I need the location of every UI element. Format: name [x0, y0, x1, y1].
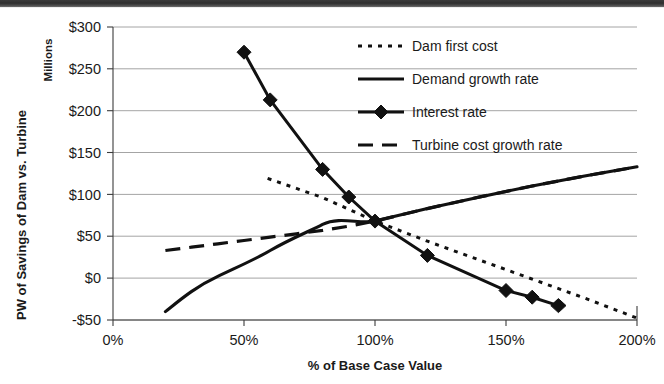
- legend-item-turbine-cost-growth-rate[interactable]: Turbine cost growth rate: [358, 137, 563, 153]
- x-axis-title: % of Base Case Value: [308, 358, 442, 373]
- xtick-label-100: 100%: [356, 332, 393, 348]
- chart-legend: Dam first cost Demand growth rate Intere…: [358, 38, 563, 153]
- legend-label-interest-rate: Interest rate: [412, 104, 487, 120]
- y-tick-labels: $300 $250 $200 $150 $100 $50 $0 -$50: [69, 19, 101, 328]
- legend-label-turbine-cost-growth-rate: Turbine cost growth rate: [412, 137, 563, 153]
- ytick-label-300: $300: [69, 19, 101, 35]
- data-point-marker: [551, 299, 566, 313]
- ytick-label-0: $0: [85, 270, 101, 286]
- xtick-label-0: 0%: [103, 332, 124, 348]
- data-point-marker: [525, 290, 539, 304]
- data-point-marker: [499, 284, 513, 298]
- ytick-label-200: $200: [69, 103, 101, 119]
- legend-label-dam-first-cost: Dam first cost: [412, 38, 498, 54]
- ytick-label-100: $100: [69, 187, 101, 203]
- gridlines: [113, 27, 637, 320]
- chart-svg: $300 $250 $200 $150 $100 $50 $0 -$50 0% …: [0, 0, 664, 384]
- axes: [107, 27, 637, 326]
- sensitivity-chart: $300 $250 $200 $150 $100 $50 $0 -$50 0% …: [0, 0, 664, 384]
- ytick-label-50: $50: [77, 228, 101, 244]
- series-interest-rate: [244, 52, 558, 305]
- xtick-label-150: 150%: [487, 332, 524, 348]
- y-axis-title: PW of Savings of Dam vs. Turbine: [14, 110, 29, 320]
- x-tick-labels: 0% 50% 100% 150% 200%: [103, 332, 656, 348]
- y-axis-unit-label: Millions: [42, 39, 54, 82]
- legend-item-dam-first-cost[interactable]: Dam first cost: [358, 38, 498, 54]
- legend-label-demand-growth-rate: Demand growth rate: [412, 71, 539, 87]
- series-dam-first-cost: [268, 178, 637, 318]
- ytick-label-minus50: -$50: [72, 312, 101, 328]
- legend-item-demand-growth-rate[interactable]: Demand growth rate: [358, 71, 539, 87]
- ytick-label-150: $150: [69, 145, 101, 161]
- xtick-label-200: 200%: [618, 332, 655, 348]
- series-group: [165, 45, 637, 318]
- ytick-label-250: $250: [69, 61, 101, 77]
- data-point-marker: [237, 45, 251, 59]
- legend-diamond-marker-icon: [374, 105, 388, 119]
- legend-item-interest-rate[interactable]: Interest rate: [358, 104, 487, 120]
- xtick-label-50: 50%: [229, 332, 258, 348]
